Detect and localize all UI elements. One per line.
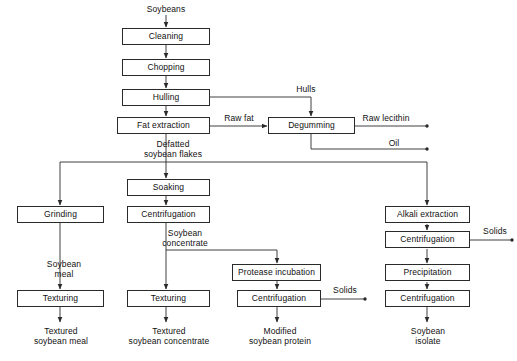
process-node-centrifugation-alkali[interactable]: Centrifugation	[385, 231, 470, 248]
process-node-centrifugation-concentrate[interactable]: Centrifugation	[127, 206, 210, 223]
process-node-texturing-concentrate[interactable]: Texturing	[127, 290, 210, 307]
process-node-texturing-meal[interactable]: Texturing	[17, 290, 104, 307]
process-node-fat-extraction[interactable]: Fat extraction	[117, 117, 210, 134]
label-textured-soybean-concentrate: Texturedsoybean concentrate	[113, 326, 225, 346]
label-soybean-meal: Soybeanmeal	[33, 259, 95, 279]
process-node-grinding[interactable]: Grinding	[17, 206, 104, 223]
process-node-protease-incubation[interactable]: Protease incubation	[232, 264, 321, 281]
label-soybean-concentrate: Soybeanconcentrate	[145, 228, 225, 248]
process-node-soaking[interactable]: Soaking	[127, 179, 210, 196]
label-soybeans: Soybeans	[136, 4, 196, 14]
process-node-chopping[interactable]: Chopping	[122, 59, 210, 76]
label-solids-alkali: Solids	[476, 226, 514, 236]
process-node-precipitation[interactable]: Precipitation	[385, 264, 470, 281]
label-raw-fat: Raw fat	[215, 113, 263, 123]
edge-concentrate-protease	[166, 250, 277, 263]
label-hulls: Hulls	[286, 84, 326, 94]
label-modified-soybean-protein: Modifiedsoybean protein	[235, 326, 325, 346]
process-node-centrifugation-isolate[interactable]: Centrifugation	[385, 290, 470, 307]
label-textured-soybean-meal: Texturedsoybean meal	[18, 326, 104, 346]
process-node-cleaning[interactable]: Cleaning	[122, 28, 210, 45]
process-node-hulling[interactable]: Hulling	[122, 89, 210, 106]
label-soybean-isolate: Soybeanisolate	[385, 326, 471, 346]
label-raw-lecithin: Raw lecithin	[355, 113, 417, 123]
label-solids-protease: Solids	[326, 285, 364, 295]
process-node-degumming[interactable]: Degumming	[268, 117, 355, 134]
label-defatted-soybean-flakes: Defattedsoybean flakes	[131, 139, 215, 159]
process-node-alkali-extraction[interactable]: Alkali extraction	[385, 206, 470, 223]
process-node-centrifugation-protein[interactable]: Centrifugation	[237, 290, 321, 307]
edge-degumming-oil	[311, 134, 427, 149]
flowchart-canvas: Cleaning Chopping Hulling Fat extraction…	[0, 0, 517, 361]
label-oil: Oil	[380, 138, 408, 148]
